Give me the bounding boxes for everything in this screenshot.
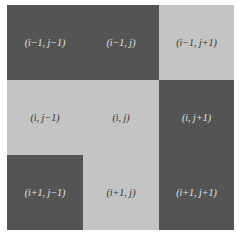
- cell-label: (i, j−1): [31, 112, 60, 123]
- cell-i-j-minus1: (i, j−1): [7, 80, 83, 155]
- cell-i-j: (i, j): [83, 80, 159, 155]
- cell-i-minus1-j-minus1: (i−1, j−1): [7, 5, 83, 80]
- cell-i-plus1-j-minus1: (i+1, j−1): [7, 155, 83, 230]
- cell-i-j-plus1: (i, j+1): [159, 80, 234, 155]
- cell-label: (i+1, j−1): [25, 187, 66, 198]
- cell-label: (i−1, j−1): [25, 37, 66, 48]
- cell-label: (i, j+1): [182, 112, 211, 123]
- cell-label: (i+1, j+1): [176, 187, 217, 198]
- cell-label: (i, j): [112, 112, 129, 123]
- cell-label: (i−1, j): [107, 37, 136, 48]
- cell-i-minus1-j: (i−1, j): [83, 5, 159, 80]
- cell-label: (i+1, j): [107, 187, 136, 198]
- cell-label: (i−1, j+1): [176, 37, 217, 48]
- cell-i-plus1-j-plus1: (i+1, j+1): [159, 155, 234, 230]
- cell-i-minus1-j-plus1: (i−1, j+1): [159, 5, 234, 80]
- cell-i-plus1-j: (i+1, j): [83, 155, 159, 230]
- neighborhood-grid: (i−1, j−1) (i−1, j) (i−1, j+1) (i, j−1) …: [7, 5, 234, 230]
